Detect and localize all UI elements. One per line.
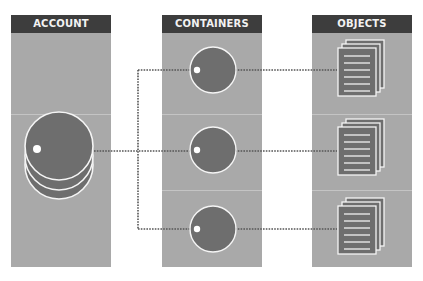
document-stack-icon-1 <box>338 40 384 96</box>
account-stacked-disks-icon <box>25 112 93 199</box>
container-disk-icon-1 <box>190 47 236 93</box>
diagram-graphics <box>0 0 423 281</box>
container-disk-icon-2 <box>190 127 236 173</box>
document-stack-icon-3 <box>338 198 384 254</box>
container-disk-icon-3 <box>190 206 236 252</box>
document-stack-icon-2 <box>338 119 384 175</box>
